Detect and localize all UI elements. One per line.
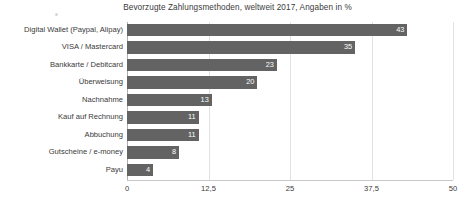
bar-row: 20 (127, 75, 453, 93)
bar-row: 11 (127, 110, 453, 128)
x-axis: 012,52537,550 (127, 180, 453, 202)
bar-row: 4 (127, 162, 453, 180)
artifact-speck (55, 13, 58, 16)
x-tick-label: 25 (286, 184, 294, 193)
bar-row: 13 (127, 92, 453, 110)
bar-value-label: 11 (127, 111, 199, 123)
x-axis-line (127, 180, 453, 181)
bar-value-label: 20 (127, 76, 257, 88)
bar-value-label: 11 (127, 129, 199, 141)
category-label: Kauf auf Rechnung (3, 111, 127, 123)
bar-row: 11 (127, 127, 453, 145)
x-tick-label: 37,5 (364, 184, 379, 193)
x-tick-label: 50 (449, 184, 457, 193)
category-label: Digital Wallet (Paypal, Alipay) (3, 24, 127, 36)
category-label: Nachnahme (3, 94, 127, 106)
bar-value-label: 4 (127, 164, 153, 176)
category-label: Payu (3, 164, 127, 176)
category-label: Überweisung (3, 76, 127, 88)
x-tick-label: 12,5 (201, 184, 216, 193)
x-tick-label: 0 (125, 184, 129, 193)
bar-value-label: 13 (127, 94, 212, 106)
bar-chart: Bevorzugte Zahlungsmethoden, weltweit 20… (0, 0, 475, 207)
category-label: Gutscheine / e-money (3, 146, 127, 158)
bar-value-label: 35 (127, 41, 355, 53)
bar-row: 35 (127, 40, 453, 58)
bar-row: 23 (127, 57, 453, 75)
category-axis-labels: Digital Wallet (Paypal, Alipay)VISA / Ma… (0, 22, 127, 180)
chart-title: Bevorzugte Zahlungsmethoden, weltweit 20… (0, 3, 475, 12)
category-label: Abbuchung (3, 129, 127, 141)
category-label: VISA / Mastercard (3, 41, 127, 53)
bar-value-label: 8 (127, 146, 179, 158)
gridline (453, 22, 454, 180)
bar-value-label: 43 (127, 24, 407, 36)
bar-row: 8 (127, 145, 453, 163)
plot-area: 4335232013111184 (127, 22, 453, 180)
category-label: Bankkarte / Debitcard (3, 59, 127, 71)
bar-value-label: 23 (127, 59, 277, 71)
bar-row: 43 (127, 22, 453, 40)
